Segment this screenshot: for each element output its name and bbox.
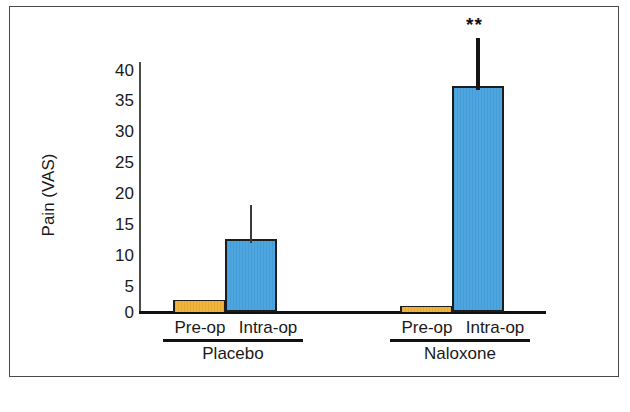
bar-chart-plot: Pain (VAS) 40 35 30 25 20 15 10 5 0 ** P… (0, 0, 630, 412)
bar-placebo-pre-op (173, 300, 226, 312)
group-label-placebo: Placebo (163, 344, 303, 364)
bar-naloxone-intra-op (452, 86, 504, 312)
y-axis-tick-labels: 40 35 30 25 20 15 10 5 0 (102, 0, 134, 412)
figure-canvas: Pain (VAS) 40 35 30 25 20 15 10 5 0 ** P… (0, 0, 630, 412)
bar-placebo-intra-op (225, 239, 277, 312)
y-tick-0: 0 (104, 304, 134, 321)
group-label-naloxone: Naloxone (390, 344, 530, 364)
y-tick-25: 25 (104, 154, 134, 171)
bar-naloxone-pre-op (400, 306, 453, 312)
x-label-naloxone-intra-op: Intra-op (445, 318, 545, 338)
y-tick-10: 10 (104, 247, 134, 264)
y-tick-40: 40 (104, 62, 134, 79)
y-axis-title: Pain (VAS) (39, 125, 59, 265)
group-rule-naloxone (390, 339, 530, 342)
y-tick-30: 30 (104, 123, 134, 140)
y-tick-20: 20 (104, 185, 134, 202)
significance-marker-naloxone-intra-op: ** (466, 15, 483, 34)
y-axis-line (139, 62, 141, 313)
y-tick-15: 15 (104, 216, 134, 233)
group-rule-placebo (163, 339, 303, 342)
x-label-placebo-intra-op: Intra-op (218, 318, 318, 338)
y-tick-35: 35 (104, 92, 134, 109)
error-bar-placebo-intra-op (250, 205, 252, 243)
error-bar-naloxone-intra-op (476, 38, 480, 91)
y-tick-5: 5 (104, 278, 134, 295)
